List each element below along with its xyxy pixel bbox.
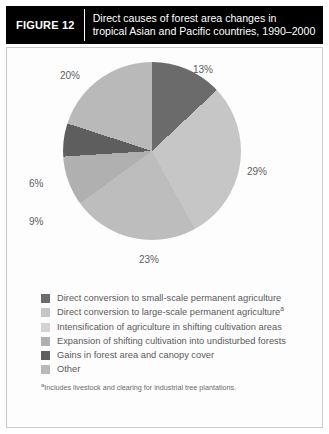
legend-swatch-icon bbox=[41, 308, 50, 317]
figure-footnote: aIncludes livestock and clearing for ind… bbox=[41, 383, 313, 393]
pie-slice-label-3: 23% bbox=[139, 254, 159, 265]
pie-chart bbox=[63, 62, 241, 240]
figure-title-line-1: Direct causes of forest area changes in bbox=[93, 12, 317, 25]
legend-item-label: Other bbox=[57, 364, 80, 375]
legend-item: Direct conversion to small-scale permane… bbox=[41, 292, 316, 306]
legend-swatch-icon bbox=[41, 351, 50, 360]
legend-item: Gains in forest area and canopy cover bbox=[41, 349, 316, 363]
legend-item-label: Gains in forest area and canopy cover bbox=[57, 350, 214, 361]
figure-header: FIGURE 12 Direct causes of forest area c… bbox=[6, 6, 323, 44]
figure-title-line-2: tropical Asian and Pacific countries, 19… bbox=[93, 25, 317, 38]
legend-item: Expansion of shifting cultivation into u… bbox=[41, 335, 316, 349]
legend-footnote-marker: a bbox=[280, 305, 284, 312]
legend-swatch-icon bbox=[41, 323, 50, 332]
footnote-text: Includes livestock and clearing for indu… bbox=[44, 383, 236, 392]
legend-swatch-icon bbox=[41, 365, 50, 374]
pie-slice-label-6: 20% bbox=[60, 70, 80, 81]
figure-title: Direct causes of forest area changes in … bbox=[85, 6, 323, 44]
pie-chart-area: 13% 29% 23% 9% 6% 20% bbox=[7, 48, 322, 281]
legend-item: Direct conversion to large-scale permane… bbox=[41, 306, 316, 320]
figure-panel: 13% 29% 23% 9% 6% 20% Direct conversion … bbox=[6, 47, 323, 428]
legend-item-label: Direct conversion to small-scale permane… bbox=[57, 293, 281, 304]
legend-swatch-icon bbox=[41, 337, 50, 346]
legend-item-label: Direct conversion to large-scale permane… bbox=[57, 307, 284, 318]
pie-slice-label-1: 13% bbox=[193, 64, 213, 75]
pie-slice-label-2: 29% bbox=[247, 166, 267, 177]
figure-container: FIGURE 12 Direct causes of forest area c… bbox=[0, 0, 329, 434]
legend-item: Intensification of agriculture in shifti… bbox=[41, 320, 316, 334]
chart-legend: Direct conversion to small-scale permane… bbox=[41, 292, 316, 377]
legend-item-label: Intensification of agriculture in shifti… bbox=[57, 322, 282, 333]
figure-number-label: FIGURE 12 bbox=[6, 6, 84, 44]
pie-slice-label-4: 9% bbox=[29, 216, 43, 227]
legend-swatch-icon bbox=[41, 294, 50, 303]
legend-item: Other bbox=[41, 363, 316, 377]
pie-slice-label-5: 6% bbox=[29, 178, 43, 189]
legend-item-label: Expansion of shifting cultivation into u… bbox=[57, 336, 286, 347]
